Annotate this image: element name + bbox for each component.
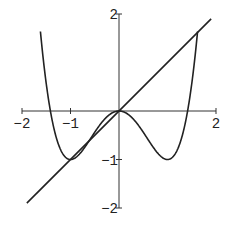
y-tick-label: −1 bbox=[101, 153, 118, 169]
x-tick-label: −2 bbox=[14, 116, 31, 132]
x-tick-label: −1 bbox=[62, 116, 79, 132]
y-tick-label: −2 bbox=[101, 201, 118, 217]
y-tick-label: 2 bbox=[110, 7, 118, 23]
plot: −2−122−1−2 bbox=[0, 0, 232, 225]
plot-svg: −2−122−1−2 bbox=[0, 0, 232, 225]
x-tick-label: 2 bbox=[212, 116, 220, 132]
